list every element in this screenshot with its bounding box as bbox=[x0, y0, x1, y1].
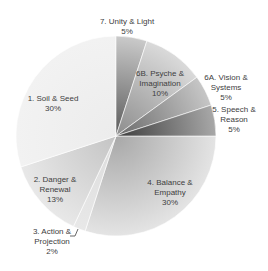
label-action: 3. Action &Projection2% bbox=[33, 227, 72, 256]
label-vision: 6A. Vision &Systems5% bbox=[204, 73, 248, 102]
label-unity: 7. Unity & Light5% bbox=[100, 17, 155, 36]
label-speech: 5. Speech &Reason5% bbox=[212, 105, 256, 134]
leader-line bbox=[70, 229, 78, 236]
pie-slices bbox=[16, 36, 216, 236]
pie-chart: 4. Balance &Empathy30%3. Action &Project… bbox=[0, 0, 268, 271]
